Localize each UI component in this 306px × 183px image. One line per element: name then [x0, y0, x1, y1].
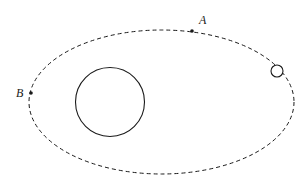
- point-a-label: A: [198, 13, 207, 27]
- orbit-diagram: A B: [0, 0, 306, 183]
- planet-circle: [76, 68, 145, 137]
- elliptical-orbit: [29, 30, 294, 174]
- satellite-circle: [271, 65, 283, 77]
- point-b: B: [16, 86, 33, 100]
- point-b-label: B: [16, 86, 24, 100]
- point-b-dot: [29, 91, 33, 95]
- point-a-dot: [190, 29, 194, 33]
- point-a: A: [190, 13, 207, 33]
